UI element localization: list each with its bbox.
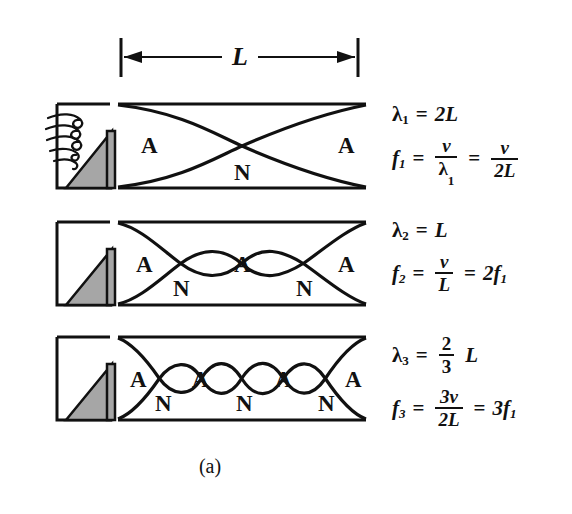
second-harmonic-equations: λ2 = L f2 = v L = 2f1 [392,220,507,294]
tube3-antinode-label-3: A [275,367,292,392]
frequency-multiple-sub-2: 1 [501,272,508,285]
third-harmonic-equations: λ3 = 2 3 L f3 = 3v 2L = 3f1 [392,334,517,429]
tube3-antinode-label-2: A [192,367,209,392]
den-lambda: λ [438,158,447,179]
equals-sign: = [416,104,428,125]
fraction-v-over-lambda1: v λ1 [435,136,457,182]
wavelength-equation-1: λ1 = 2L [392,104,522,125]
mouthpiece-edge-2 [107,249,115,305]
airflow-icon [46,114,82,169]
lambda-subscript-2: 2 [402,229,409,242]
f-symbol-2: f [392,263,399,284]
equals-sign: = [474,398,486,419]
f-subscript-2: 2 [399,272,406,285]
frequency-multiple-3: 3f [493,398,511,419]
wavelength-equation-2: λ2 = L [392,220,507,241]
numerator-v-2: v [498,138,512,158]
dimension-label-L: L [231,42,248,71]
mouthpiece-wedge-2 [66,249,112,305]
lambda-subscript-3: 3 [402,354,409,367]
tube2-antinode-label-3: A [338,252,355,277]
numerator-v-3: v [437,252,451,272]
denominator-lambda1: λ1 [435,156,457,182]
fraction-two-thirds: 2 3 [439,334,455,376]
f-subscript-3: 3 [399,407,406,420]
numerator-2: 2 [439,334,455,354]
length-dimension: L [121,38,358,77]
f-symbol-3: f [392,398,399,419]
lambda-subscript-1: 1 [402,113,409,126]
fraction-v-over-2L: v 2L [491,138,518,180]
tube1-antinode-label-2: A [338,133,355,158]
tube2-antinode-label-1: A [136,252,153,277]
tube2-antinode-label-2: A [234,252,251,277]
tube1-node-label-1: N [234,160,251,185]
denominator-2L: 2L [491,158,518,180]
denominator-3: 3 [439,354,455,376]
equals-sign: = [416,345,428,366]
wavelength-value-2: L [435,220,448,241]
numerator-3v: 3v [437,387,461,407]
arrowhead-right-icon [337,51,355,63]
lambda-symbol-3: λ [392,345,402,366]
fraction-3v-over-2L: 3v 2L [435,387,462,429]
tube3-node-label-2: N [236,391,253,416]
frequency-multiple-2: 2f [483,263,501,284]
first-harmonic-tube: A A N [46,104,366,188]
arrowhead-left-icon [124,51,142,63]
equals-sign: = [413,148,425,169]
equals-sign: = [416,220,428,241]
wavelength-value-3: L [465,345,478,366]
f-subscript-1: 1 [399,157,406,170]
tube3-antinode-label-1: A [130,367,147,392]
tube3-node-label-3: N [318,391,335,416]
mouthpiece-edge [107,131,115,188]
first-harmonic-equations: λ1 = 2L f1 = v λ1 = v 2L [392,104,522,182]
wavelength-equation-3: λ3 = 2 3 L [392,334,517,376]
second-harmonic-tube: A A A N N [57,222,366,305]
numerator-v: v [439,136,453,156]
tube3-node-label-1: N [155,391,172,416]
frequency-equation-1: f1 = v λ1 = v 2L [392,136,522,182]
f-symbol-1: f [392,148,399,169]
mouthpiece-wedge-3 [66,364,112,420]
frequency-multiple-sub-3: 1 [510,407,517,420]
equals-sign: = [464,263,476,284]
lambda-symbol-2: λ [392,220,402,241]
figure-caption: (a) [0,455,420,478]
tube3-antinode-label-4: A [345,367,362,392]
equals-sign: = [413,263,425,284]
denominator-2L-2: 2L [435,407,462,429]
denominator-L: L [435,272,453,294]
third-harmonic-tube: A A A A N N N [57,337,366,420]
den-lambda-sub: 1 [448,173,455,188]
lambda-symbol-1: λ [392,104,402,125]
tube2-node-label-2: N [296,276,313,301]
fraction-v-over-L: v L [435,252,453,294]
wavelength-value-1: 2L [435,104,458,125]
mouthpiece-edge-3 [107,364,115,420]
equals-sign: = [413,398,425,419]
frequency-equation-3: f3 = 3v 2L = 3f1 [392,387,517,429]
frequency-equation-2: f2 = v L = 2f1 [392,252,507,294]
equals-sign: = [468,148,480,169]
tube1-antinode-label-1: A [141,133,158,158]
tube2-node-label-1: N [173,276,190,301]
